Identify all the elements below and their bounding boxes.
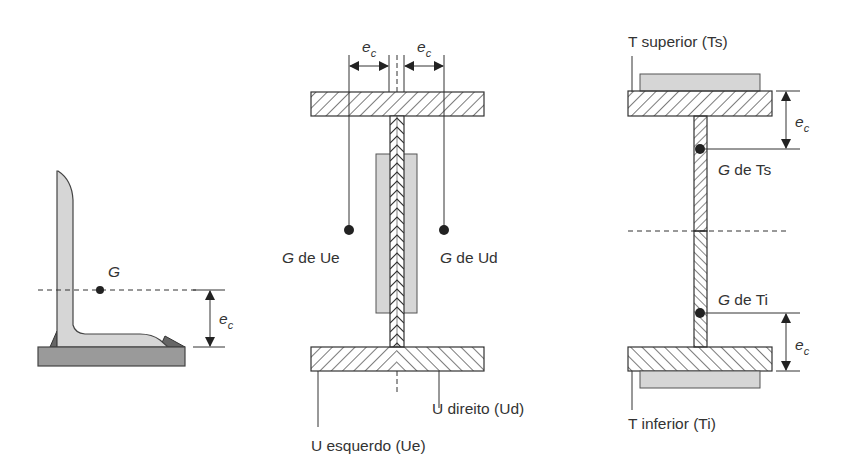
ts-eccentricity-label: ec xyxy=(795,113,810,134)
ue-channel-label: U esquerdo (Ue) xyxy=(311,437,426,454)
bottom-tee-flange xyxy=(628,347,772,371)
ti-stem xyxy=(694,231,707,347)
bottom-flange-right-half xyxy=(397,347,484,371)
ud-centroid-dot xyxy=(439,225,449,235)
centroid-label-g: G xyxy=(108,263,120,280)
double-tee-panel: T superior (Ts) ec G de Ts e xyxy=(628,33,810,432)
ti-eccentricity-label: ec xyxy=(795,336,810,357)
centroid-dot xyxy=(96,286,104,294)
gusset-plate xyxy=(38,347,185,366)
ts-stem xyxy=(694,116,707,231)
ti-centroid-dot xyxy=(695,308,705,318)
top-tee-flange xyxy=(628,91,772,116)
ti-tee-label: T inferior (Ti) xyxy=(628,415,716,432)
double-channel-panel: ec ec G de Ue G de Ud xyxy=(282,38,524,454)
weld-fillet-left xyxy=(50,331,57,347)
bottom-flange-left-half xyxy=(311,347,397,371)
ue-centroid-label: G de Ue xyxy=(282,249,340,266)
top-splice-plate xyxy=(640,74,760,91)
ti-centroid-label: G de Ti xyxy=(718,291,768,308)
ts-centroid-label: G de Ts xyxy=(718,161,771,178)
angle-section-panel: G ec xyxy=(38,171,234,366)
top-flange-right-half xyxy=(397,92,484,116)
ts-tee-label: T superior (Ts) xyxy=(628,33,728,50)
right-eccentricity-label: ec xyxy=(417,38,432,59)
top-flange-left-half xyxy=(311,92,397,116)
eccentricity-label: ec xyxy=(219,310,234,331)
angle-profile xyxy=(57,171,168,347)
connection-eccentricity-diagram: G ec ec ec xyxy=(0,0,853,472)
ud-centroid-label: G de Ud xyxy=(440,249,498,266)
bottom-splice-plate xyxy=(640,371,760,388)
ud-channel-label: U direito (Ud) xyxy=(432,400,524,417)
ts-centroid-dot xyxy=(695,144,705,154)
ue-centroid-dot xyxy=(344,225,354,235)
left-eccentricity-label: ec xyxy=(362,38,377,59)
